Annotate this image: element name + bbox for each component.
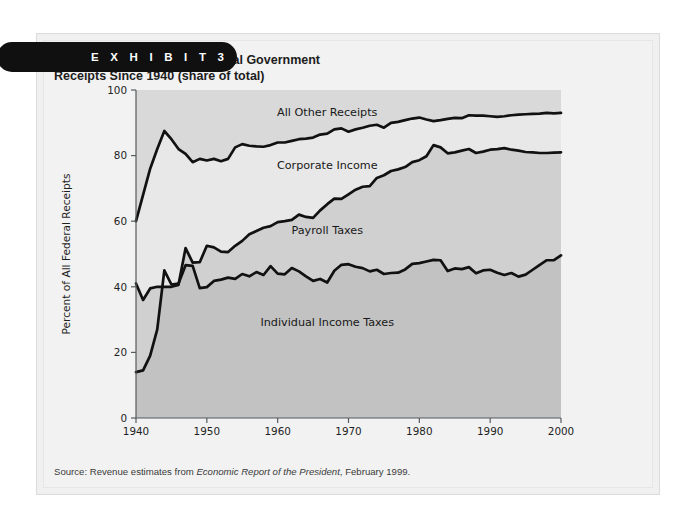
exhibit-panel: Percent Composition of Federal Governmen…	[36, 33, 660, 495]
band-label-individual-income-taxes: Individual Income Taxes	[260, 316, 394, 329]
y-tick-label: 0	[120, 412, 127, 424]
exhibit-panel-inner: Percent Composition of Federal Governmen…	[43, 40, 653, 488]
y-tick-label: 80	[114, 149, 127, 161]
source-note: Source: Revenue estimates from Economic …	[54, 466, 410, 477]
x-tick-label: 1950	[194, 425, 220, 437]
x-tick-label: 1990	[477, 425, 503, 437]
chart-figure: 0204060801001940195019601970198019902000…	[44, 77, 654, 457]
exhibit-badge: E X H I B I T 3	[0, 42, 237, 72]
band-label-all-other-receipts: All Other Receipts	[277, 106, 378, 119]
chart-bands	[136, 90, 561, 418]
exhibit-badge-label: E X H I B I T 3	[91, 42, 228, 72]
source-italic-title: Economic Report of the President	[196, 466, 339, 477]
x-tick-label: 2000	[548, 425, 574, 437]
x-tick-label: 1960	[264, 425, 290, 437]
y-tick-label: 100	[107, 84, 127, 96]
x-tick-label: 1940	[123, 425, 149, 437]
source-prefix: Source: Revenue estimates from	[54, 466, 196, 477]
y-tick-label: 40	[114, 281, 127, 293]
x-tick-label: 1970	[335, 425, 361, 437]
y-tick-label: 60	[114, 215, 127, 227]
area-chart: 0204060801001940195019601970198019902000…	[44, 77, 654, 457]
source-suffix: , February 1999.	[340, 466, 410, 477]
y-axis-title: Percent of All Federal Receipts	[60, 174, 72, 335]
y-tick-label: 20	[114, 346, 127, 358]
x-tick-label: 1980	[406, 425, 432, 437]
band-label-corporate-income: Corporate Income	[277, 159, 378, 172]
band-label-payroll-taxes: Payroll Taxes	[291, 224, 363, 237]
